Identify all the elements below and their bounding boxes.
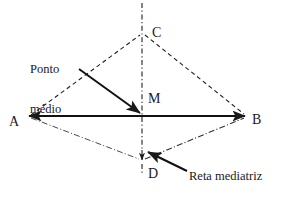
ponto-medio-leader-arrow [79, 69, 140, 113]
segment-D-to-B [145, 118, 244, 159]
geometry-diagram: A B C D M Ponto médio Reta mediatriz [0, 0, 282, 199]
point-label-A: A [9, 115, 19, 130]
point-label-B: B [252, 113, 261, 128]
point-label-C: C [152, 26, 161, 41]
annotation-ponto-medio: Ponto médio [30, 37, 61, 142]
point-label-M: M [148, 92, 160, 107]
annotation-reta-mediatriz: Reta mediatriz [189, 170, 262, 183]
point-label-D: D [148, 167, 158, 182]
annotation-ponto-medio-line1: Ponto [30, 63, 61, 76]
annotation-ponto-medio-line2: médio [30, 103, 61, 116]
